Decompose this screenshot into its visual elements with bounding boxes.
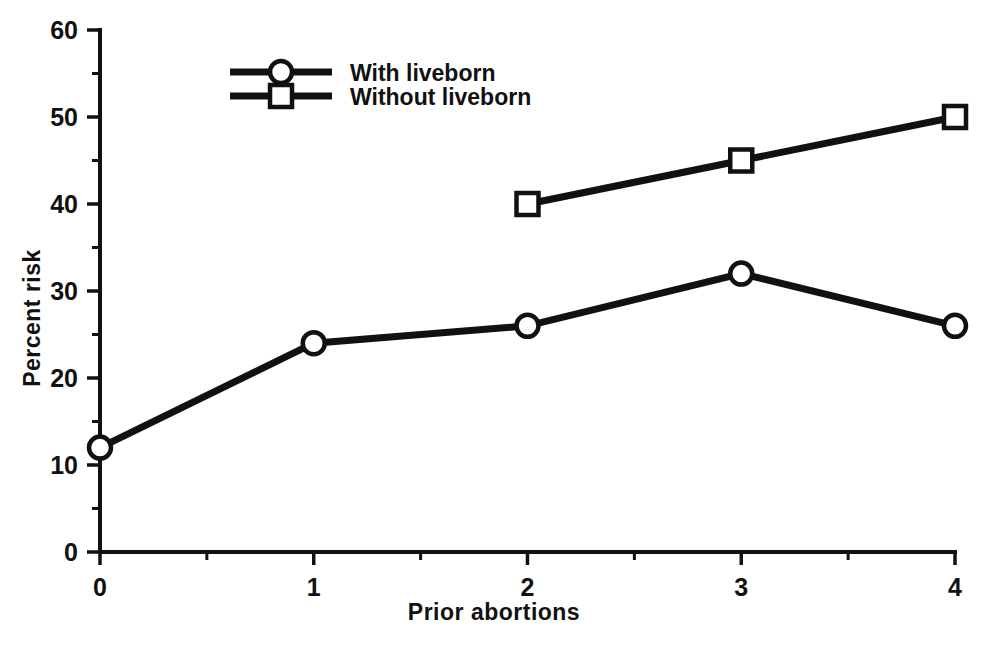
chart-legend: With livebornWithout liveborn [230,60,531,110]
x-tick-label: 0 [93,573,107,601]
y-tick-label: 30 [50,277,78,305]
chart-figure: 0102030405060 01234 Prior abortions Perc… [0,0,993,647]
y-axis-title: Percent risk [19,249,45,387]
x-tick-label: 3 [734,573,748,601]
legend-label: With liveborn [350,60,495,86]
data-point-square-marker[interactable] [944,106,966,128]
legend-label: Without liveborn [350,84,531,110]
x-axis-tick-labels: 01234 [93,573,962,601]
data-point-square-marker[interactable] [730,150,752,172]
square-marker-icon [270,85,292,107]
series-line [100,274,955,448]
data-point-square-marker[interactable] [517,193,539,215]
data-point-circle-marker[interactable] [89,437,111,459]
y-tick-label: 50 [50,103,78,131]
x-tick-label: 2 [521,573,535,601]
line-chart-canvas: 0102030405060 01234 Prior abortions Perc… [0,0,993,647]
data-point-circle-marker[interactable] [944,315,966,337]
data-point-circle-marker[interactable] [517,315,539,337]
series-with-liveborn [89,263,966,459]
y-tick-label: 60 [50,16,78,44]
y-tick-label: 40 [50,190,78,218]
legend-item-with-liveborn[interactable]: With liveborn [230,60,495,86]
y-tick-label: 10 [50,451,78,479]
data-point-circle-marker[interactable] [730,263,752,285]
data-series-layer [89,106,966,459]
y-tick-label: 20 [50,364,78,392]
x-tick-label: 1 [307,573,321,601]
circle-marker-icon [270,61,292,83]
y-tick-label: 0 [64,538,78,566]
series-without-liveborn [517,106,967,215]
y-axis-tick-labels: 0102030405060 [50,16,78,566]
data-point-circle-marker[interactable] [303,332,325,354]
legend-item-without-liveborn[interactable]: Without liveborn [230,84,531,110]
x-tick-label: 4 [948,573,962,601]
x-axis-title: Prior abortions [408,599,580,625]
